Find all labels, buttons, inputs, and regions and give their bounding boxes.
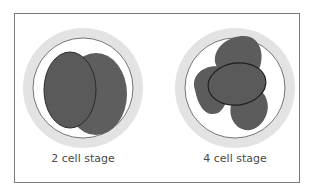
two-cell-label: 2 cell stage: [23, 152, 143, 165]
four-cell-label: 4 cell stage: [175, 152, 295, 165]
two-cell-embryo: [23, 28, 143, 148]
four-cell-embryo: [175, 28, 295, 148]
blastomere-1: [44, 52, 96, 128]
